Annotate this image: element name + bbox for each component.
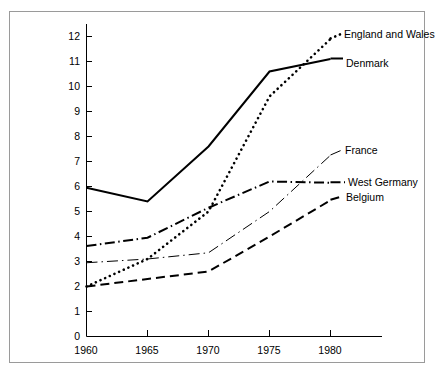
x-tick-label-1960: 1960	[66, 345, 106, 356]
y-tick-label-2: 2	[58, 281, 80, 292]
series-label-france: France	[345, 145, 378, 156]
y-tick-label-7: 7	[58, 156, 80, 167]
y-tick-label-10: 10	[58, 81, 80, 92]
y-tick-label-5: 5	[58, 206, 80, 217]
series-line-west-germany	[87, 182, 331, 247]
france-leader-line	[331, 150, 343, 155]
x-tick-label-1980: 1980	[310, 345, 350, 356]
series-label-denmark: Denmark	[346, 58, 389, 69]
x-tick-label-1965: 1965	[127, 345, 167, 356]
axis-lines	[87, 24, 383, 337]
series-line-denmark	[87, 59, 331, 202]
belgium-leader-line	[331, 196, 344, 200]
y-tick-label-1: 1	[58, 306, 80, 317]
series-label-west-germany: West Germany	[348, 177, 418, 188]
y-tick-label-3: 3	[58, 256, 80, 267]
x-axis-ticks	[148, 330, 331, 337]
chart-page: 12 11 10 9 8 7 6 5 4 3 2 1 0 1960 1965 1…	[0, 0, 436, 376]
y-tick-label-4: 4	[58, 231, 80, 242]
series-line-france	[87, 155, 331, 263]
x-tick-label-1975: 1975	[249, 345, 289, 356]
y-axis-ticks	[87, 37, 93, 312]
y-tick-label-12: 12	[58, 31, 80, 42]
series-label-england-and-wales: England and Wales	[344, 29, 435, 40]
y-tick-label-9: 9	[58, 106, 80, 117]
y-tick-label-6: 6	[58, 181, 80, 192]
x-tick-label-1970: 1970	[188, 345, 228, 356]
england-and-wales-leader-line	[331, 34, 342, 39]
y-tick-label-8: 8	[58, 131, 80, 142]
y-tick-label-11: 11	[58, 56, 80, 67]
series-label-belgium: Belgium	[346, 192, 384, 203]
y-tick-label-0: 0	[58, 331, 80, 342]
series-line-belgium	[87, 200, 331, 286]
series-line-england-and-wales	[87, 39, 331, 287]
